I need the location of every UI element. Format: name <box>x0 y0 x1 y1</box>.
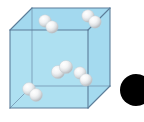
black-circle-marker <box>120 74 144 106</box>
molecule-atom <box>59 60 72 73</box>
molecule-atom <box>30 89 43 102</box>
diagram-canvas: Gas molecules in a cubic container <box>0 0 144 122</box>
molecule-atom <box>80 74 92 86</box>
molecule-atom <box>89 16 101 28</box>
molecule-atom <box>46 21 58 33</box>
cube-and-molecules-illustration <box>0 0 144 122</box>
